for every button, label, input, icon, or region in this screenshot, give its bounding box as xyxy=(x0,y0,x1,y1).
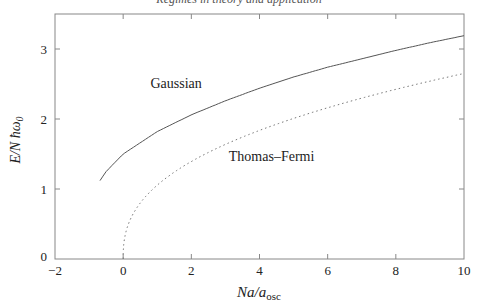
thomas-fermi-curve xyxy=(123,74,464,260)
x-tick-label: 2 xyxy=(188,263,195,278)
x-tick-label: −2 xyxy=(48,263,62,278)
thomas-fermi-label: Thomas–Fermi xyxy=(229,149,315,164)
x-axis-label: Na/aosc xyxy=(236,284,281,302)
x-tick-label: 4 xyxy=(256,263,263,278)
y-tick-label: 1 xyxy=(41,182,48,197)
y-tick-label: 2 xyxy=(41,112,48,127)
axis-ticks: −202468100123 xyxy=(41,14,471,278)
x-tick-label: 0 xyxy=(120,263,127,278)
y-tick-label: 3 xyxy=(41,42,48,57)
y-tick-label: 0 xyxy=(41,249,48,264)
x-tick-label: 10 xyxy=(458,263,471,278)
y-axis-label: E/N ħω0 xyxy=(8,116,25,164)
x-tick-label: 8 xyxy=(393,263,400,278)
x-tick-label: 6 xyxy=(324,263,331,278)
plot-frame xyxy=(55,14,464,259)
chart: −202468100123 Gaussian Thomas–Fermi Na/a… xyxy=(0,0,478,305)
gaussian-label: Gaussian xyxy=(150,76,201,91)
